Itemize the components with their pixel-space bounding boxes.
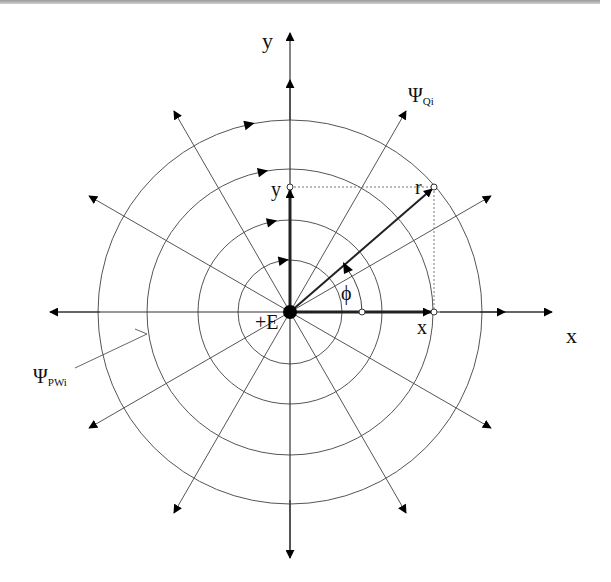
phi-label: ϕ (341, 282, 352, 305)
phi-arc-arrowhead (343, 262, 353, 274)
r-point-label: r (415, 176, 422, 198)
radial-line-330deg (290, 312, 491, 428)
phi-point-marker (359, 309, 365, 315)
circle-flow-arrowhead-1 (278, 256, 289, 265)
circle-flow-arrowhead-4 (243, 121, 254, 130)
radial-line-30deg (290, 196, 491, 312)
charge-dot (283, 305, 297, 319)
radial-line-120deg (174, 111, 290, 312)
radial-line-150deg (89, 196, 290, 312)
y-point-label: y (271, 178, 281, 201)
charge-label: +E (255, 311, 279, 333)
circle-flow-arrowhead-2 (266, 218, 277, 227)
psi-q-label: ΨQi (408, 84, 434, 107)
polar-field-diagram: y x y r x ϕ +E ΨQi ΨPWi (0, 0, 611, 582)
circular-flow-arrows (243, 121, 288, 266)
x-point-marker (431, 309, 437, 315)
psi-pw-pointer-line (75, 334, 147, 368)
r-vector (290, 189, 432, 312)
y-axis-label: y (262, 28, 273, 53)
y-point-marker (287, 184, 293, 190)
psi-pw-pointer-tick (135, 329, 147, 334)
x-point-label: x (417, 316, 427, 338)
circle-flow-arrowhead-3 (257, 168, 268, 177)
x-axis-label: x (566, 323, 577, 348)
psi-pw-label: ΨPWi (33, 365, 67, 388)
radial-line-300deg (290, 312, 406, 513)
r-point-marker (431, 184, 437, 190)
radial-line-240deg (174, 312, 290, 513)
